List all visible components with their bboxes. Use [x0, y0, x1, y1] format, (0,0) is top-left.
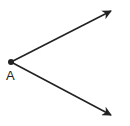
vertex-point	[8, 59, 14, 65]
lower-ray	[11, 62, 111, 115]
vertex-label: A	[6, 68, 15, 83]
angle-diagram: A	[0, 0, 130, 126]
upper-ray	[11, 11, 111, 62]
